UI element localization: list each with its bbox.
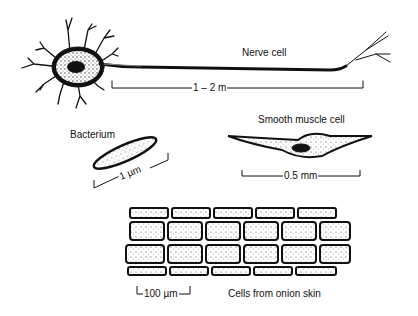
smooth-muscle-scale-label: 0.5 mm: [283, 171, 318, 181]
cell-size-illustration: [0, 0, 418, 316]
nerve-cell-drawing: [22, 18, 390, 108]
nerve-cell-scale-label: 1 – 2 m: [192, 83, 227, 93]
onion-skin-label: Cells from onion skin: [228, 289, 321, 299]
bacterium-drawing: [91, 132, 168, 188]
smooth-muscle-cell-label: Smooth muscle cell: [258, 115, 345, 125]
onion-scale-label: 100 µm: [143, 289, 179, 299]
onion-skin-cells-drawing: [126, 208, 350, 275]
nerve-cell-label: Nerve cell: [242, 48, 286, 58]
bacterium-label: Bacterium: [70, 130, 115, 140]
